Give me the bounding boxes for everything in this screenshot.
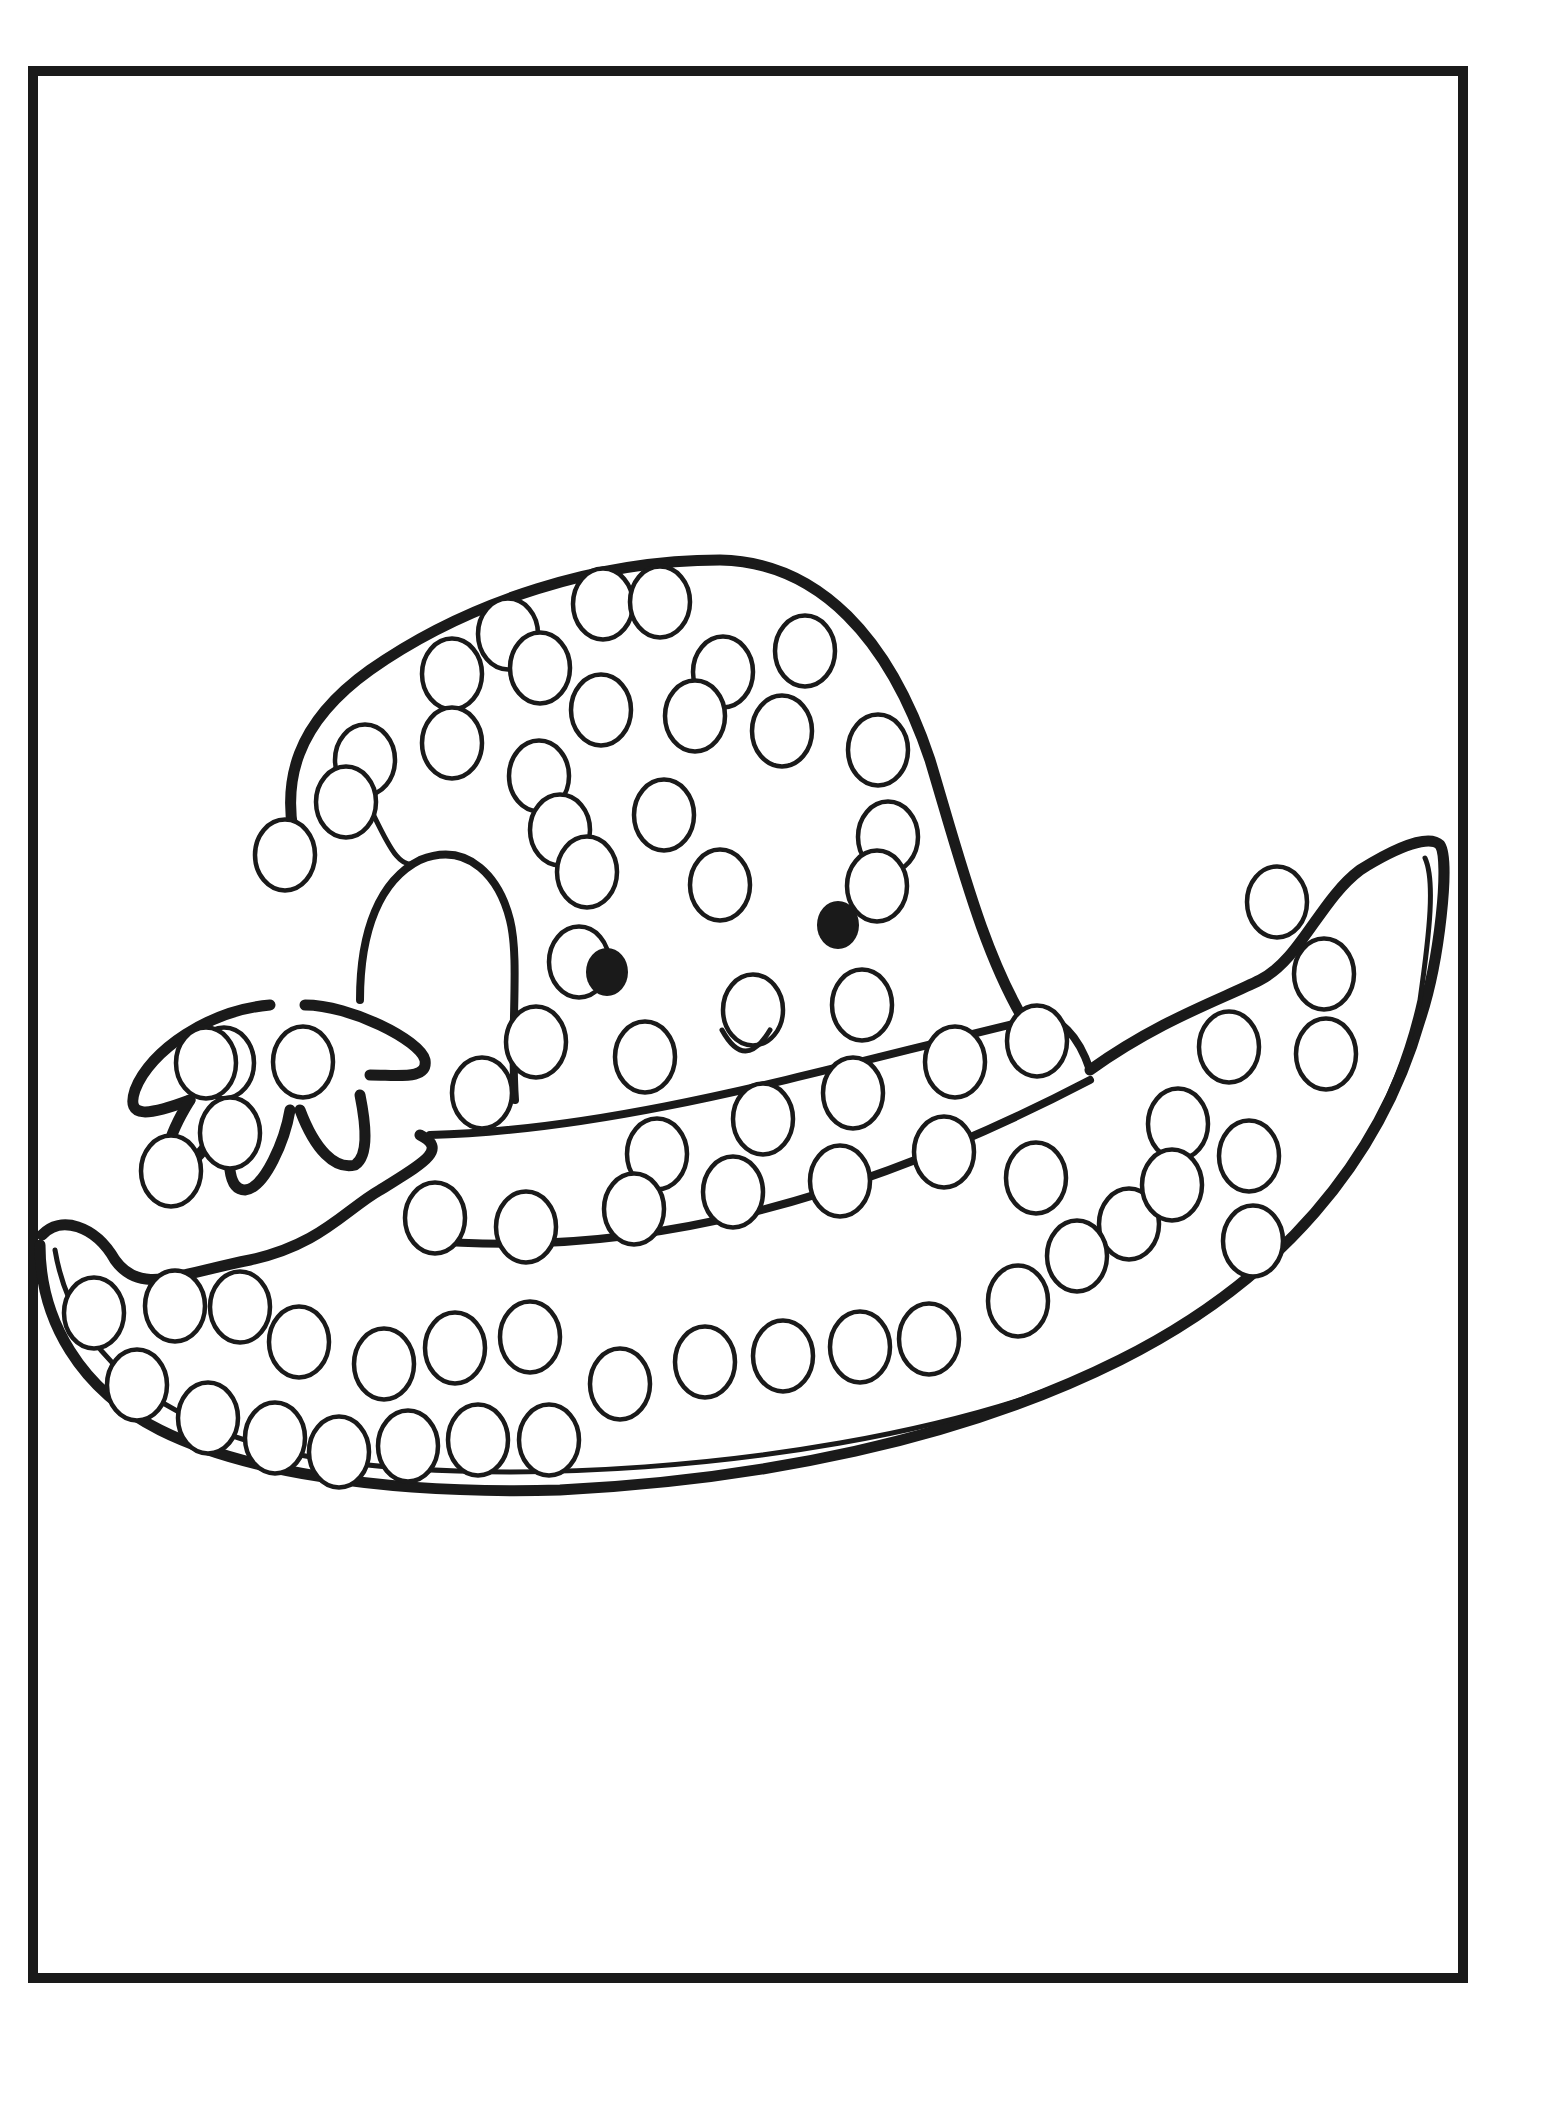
eye-icon (586, 948, 628, 996)
hat-face (0, 0, 1544, 2112)
smile-icon (722, 1030, 770, 1051)
eye-icon (817, 901, 859, 949)
